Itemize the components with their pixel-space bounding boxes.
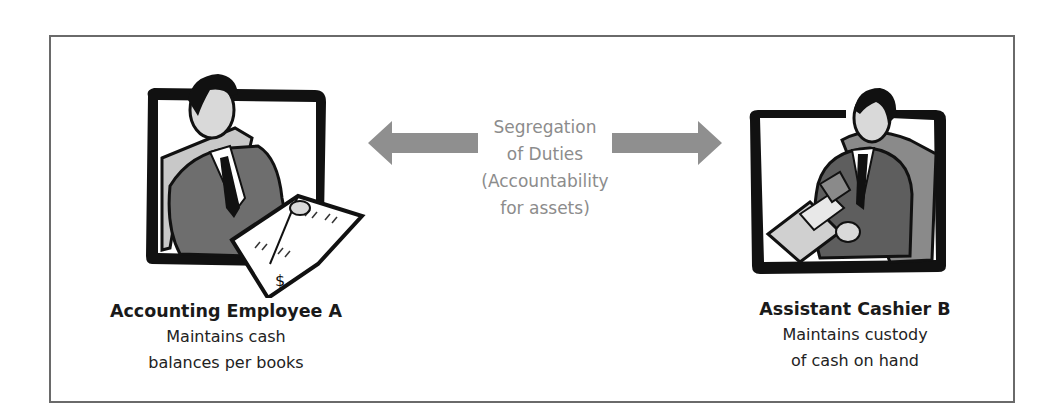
center-line: for assets) <box>470 195 620 222</box>
role-description-line: balances per books <box>84 350 368 376</box>
role-description-line: of cash on hand <box>720 348 990 374</box>
center-line: Segregation <box>470 114 620 141</box>
clipped-margin-text <box>1029 54 1037 138</box>
cashier-handling-cash-icon <box>740 84 950 276</box>
left-arrow-icon <box>368 121 478 165</box>
role-assistant-cashier: Assistant Cashier B Maintains custody of… <box>720 296 990 374</box>
center-line: of Duties <box>470 141 620 168</box>
role-description-line: Maintains cash <box>84 324 368 350</box>
role-title: Accounting Employee A <box>84 298 368 324</box>
role-description-line: Maintains custody <box>720 322 990 348</box>
right-arrow-icon <box>612 121 722 165</box>
accountant-reading-ledger-icon: $ <box>140 68 380 298</box>
role-title: Assistant Cashier B <box>720 296 990 322</box>
center-line: (Accountability <box>470 168 620 195</box>
segregation-of-duties-label: Segregation of Duties (Accountability fo… <box>470 114 620 222</box>
role-accounting-employee: Accounting Employee A Maintains cash bal… <box>84 298 368 376</box>
svg-text:$: $ <box>275 271 285 290</box>
